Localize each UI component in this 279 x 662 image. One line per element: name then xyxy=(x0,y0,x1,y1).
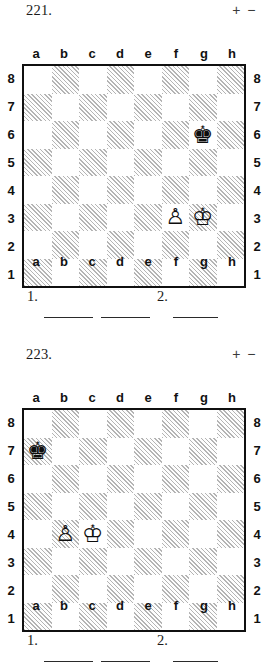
square-d8[interactable] xyxy=(107,410,135,438)
square-f7[interactable] xyxy=(162,438,190,466)
black-king-icon[interactable]: ♚ xyxy=(24,438,52,466)
square-e6[interactable] xyxy=(134,465,162,493)
square-c4[interactable]: ♔ xyxy=(79,520,107,548)
square-a3[interactable] xyxy=(24,548,52,576)
square-b3[interactable] xyxy=(52,548,80,576)
square-c6[interactable] xyxy=(79,121,107,149)
square-f8[interactable] xyxy=(162,66,190,94)
square-b5[interactable] xyxy=(52,149,80,177)
square-g3[interactable]: ♔ xyxy=(189,204,217,232)
square-b6[interactable] xyxy=(52,121,80,149)
answer-blank-2a[interactable] xyxy=(173,302,218,318)
square-a4[interactable] xyxy=(24,176,52,204)
white-king-icon[interactable]: ♔ xyxy=(189,204,217,232)
square-h6[interactable] xyxy=(217,465,245,493)
square-e5[interactable] xyxy=(134,493,162,521)
square-f4[interactable] xyxy=(162,176,190,204)
square-h3[interactable] xyxy=(217,548,245,576)
square-f5[interactable] xyxy=(162,493,190,521)
square-c4[interactable] xyxy=(79,176,107,204)
square-d7[interactable] xyxy=(107,94,135,122)
square-g7[interactable] xyxy=(189,438,217,466)
square-b6[interactable] xyxy=(52,465,80,493)
square-f6[interactable] xyxy=(162,465,190,493)
square-a5[interactable] xyxy=(24,149,52,177)
square-a5[interactable] xyxy=(24,493,52,521)
square-h8[interactable] xyxy=(217,410,245,438)
square-c6[interactable] xyxy=(79,465,107,493)
square-d8[interactable] xyxy=(107,66,135,94)
square-f6[interactable] xyxy=(162,121,190,149)
square-f4[interactable] xyxy=(162,520,190,548)
square-c7[interactable] xyxy=(79,94,107,122)
square-d7[interactable] xyxy=(107,438,135,466)
square-f3[interactable] xyxy=(162,548,190,576)
square-f5[interactable] xyxy=(162,149,190,177)
square-d4[interactable] xyxy=(107,520,135,548)
square-h7[interactable] xyxy=(217,94,245,122)
square-e8[interactable] xyxy=(134,66,162,94)
square-g6[interactable]: ♚ xyxy=(189,121,217,149)
answer-blank-2a[interactable] xyxy=(173,646,218,662)
square-d4[interactable] xyxy=(107,176,135,204)
square-h5[interactable] xyxy=(217,149,245,177)
square-g5[interactable] xyxy=(189,493,217,521)
square-a8[interactable] xyxy=(24,410,52,438)
square-g7[interactable] xyxy=(189,94,217,122)
square-a7[interactable] xyxy=(24,94,52,122)
square-e6[interactable] xyxy=(134,121,162,149)
square-a6[interactable] xyxy=(24,121,52,149)
square-a6[interactable] xyxy=(24,465,52,493)
square-a7[interactable]: ♚ xyxy=(24,438,52,466)
black-king-icon[interactable]: ♚ xyxy=(189,121,217,149)
square-c8[interactable] xyxy=(79,410,107,438)
square-h4[interactable] xyxy=(217,176,245,204)
square-e3[interactable] xyxy=(134,548,162,576)
answer-blank-1a[interactable] xyxy=(44,646,93,662)
square-d3[interactable] xyxy=(107,548,135,576)
square-e7[interactable] xyxy=(134,438,162,466)
answer-blank-1b[interactable] xyxy=(101,646,150,662)
square-b7[interactable] xyxy=(52,94,80,122)
square-b3[interactable] xyxy=(52,204,80,232)
square-g5[interactable] xyxy=(189,149,217,177)
square-g6[interactable] xyxy=(189,465,217,493)
square-b8[interactable] xyxy=(52,66,80,94)
square-b4[interactable] xyxy=(52,176,80,204)
square-e5[interactable] xyxy=(134,149,162,177)
square-b4[interactable]: ♙ xyxy=(52,520,80,548)
square-d5[interactable] xyxy=(107,493,135,521)
answer-blank-1b[interactable] xyxy=(101,302,150,318)
square-c3[interactable] xyxy=(79,204,107,232)
square-c5[interactable] xyxy=(79,493,107,521)
square-a8[interactable] xyxy=(24,66,52,94)
square-f8[interactable] xyxy=(162,410,190,438)
square-e3[interactable] xyxy=(134,204,162,232)
square-h5[interactable] xyxy=(217,493,245,521)
square-c8[interactable] xyxy=(79,66,107,94)
square-b8[interactable] xyxy=(52,410,80,438)
square-g4[interactable] xyxy=(189,520,217,548)
square-h6[interactable] xyxy=(217,121,245,149)
square-h8[interactable] xyxy=(217,66,245,94)
square-b5[interactable] xyxy=(52,493,80,521)
square-b7[interactable] xyxy=(52,438,80,466)
square-h4[interactable] xyxy=(217,520,245,548)
square-c5[interactable] xyxy=(79,149,107,177)
square-h7[interactable] xyxy=(217,438,245,466)
square-g8[interactable] xyxy=(189,66,217,94)
square-h3[interactable] xyxy=(217,204,245,232)
square-g8[interactable] xyxy=(189,410,217,438)
square-g4[interactable] xyxy=(189,176,217,204)
square-f3[interactable]: ♙ xyxy=(162,204,190,232)
white-king-icon[interactable]: ♔ xyxy=(79,520,107,548)
square-c7[interactable] xyxy=(79,438,107,466)
square-c3[interactable] xyxy=(79,548,107,576)
square-a4[interactable] xyxy=(24,520,52,548)
square-e8[interactable] xyxy=(134,410,162,438)
square-a3[interactable] xyxy=(24,204,52,232)
square-e7[interactable] xyxy=(134,94,162,122)
square-e4[interactable] xyxy=(134,176,162,204)
square-e4[interactable] xyxy=(134,520,162,548)
square-d3[interactable] xyxy=(107,204,135,232)
